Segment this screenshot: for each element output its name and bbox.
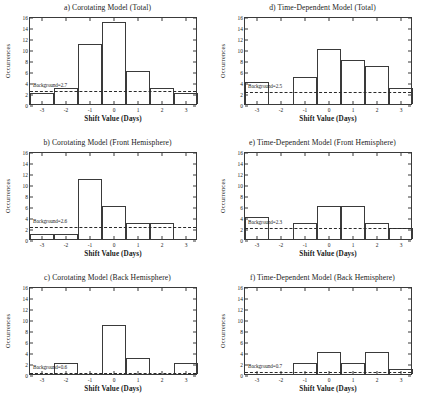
y-tick-mark (30, 40, 33, 41)
x-axis-label-e: Shift Value (Days) (244, 250, 412, 258)
y-tick-mark (30, 354, 33, 355)
histogram-bar (293, 223, 317, 240)
y-tick-mark (408, 175, 411, 176)
y-tick-label: 8 (240, 329, 243, 335)
panel-title-f: f) Time-Dependent Model (Back Hemisphere… (215, 273, 430, 282)
y-tick-label: 14 (23, 296, 28, 302)
y-tick-label: 10 (23, 318, 28, 324)
y-tick-mark (245, 62, 248, 63)
y-tick-mark (30, 299, 33, 300)
y-tick-mark (408, 321, 411, 322)
x-tick-mark (257, 153, 258, 156)
y-tick-label: 2 (240, 362, 243, 368)
y-tick-label: 6 (25, 70, 28, 76)
x-axis-label-d: Shift Value (Days) (244, 115, 412, 123)
background-level-line (245, 92, 411, 93)
x-axis-label-a: Shift Value (Days) (29, 115, 197, 123)
y-tick-mark (193, 288, 196, 289)
histogram-bar (78, 179, 102, 240)
histogram-bar (317, 352, 341, 374)
y-tick-label: 16 (23, 150, 28, 156)
x-tick-label: -1 (303, 242, 308, 248)
x-axis-label-f: Shift Value (Days) (244, 385, 412, 393)
y-tick-mark (408, 288, 411, 289)
y-tick-label: 0 (240, 373, 243, 379)
histogram-bar (365, 352, 389, 374)
y-tick-label: 12 (238, 37, 243, 43)
y-tick-mark (245, 354, 248, 355)
x-axis-label-c: Shift Value (Days) (29, 385, 197, 393)
y-tick-label: 12 (23, 172, 28, 178)
y-tick-label: 12 (23, 307, 28, 313)
plot-area-b: 0246810121416-3-2-10123Background=2.6 (29, 152, 197, 240)
background-level-label: Background=2.3 (248, 219, 282, 225)
y-tick-mark (408, 376, 411, 377)
x-tick-label: 3 (185, 107, 188, 113)
y-tick-mark (193, 84, 196, 85)
y-tick-label: 10 (23, 48, 28, 54)
y-tick-label: 12 (238, 172, 243, 178)
y-tick-label: 6 (25, 340, 28, 346)
y-tick-mark (193, 299, 196, 300)
y-tick-mark (245, 18, 248, 19)
histogram-bar (317, 49, 341, 104)
y-tick-label: 2 (25, 362, 28, 368)
x-tick-label: 0 (328, 377, 331, 383)
y-tick-mark (193, 164, 196, 165)
y-tick-label: 4 (240, 81, 243, 87)
background-level-label: Background=2.5 (248, 83, 282, 89)
y-tick-mark (408, 62, 411, 63)
y-tick-label: 6 (25, 205, 28, 211)
background-level-line (245, 372, 411, 373)
x-tick-mark (281, 153, 282, 156)
y-tick-mark (30, 208, 33, 209)
y-tick-label: 4 (25, 351, 28, 357)
y-tick-label: 16 (238, 285, 243, 291)
histogram-bar (389, 88, 413, 105)
x-tick-label: 2 (161, 242, 164, 248)
y-tick-mark (193, 332, 196, 333)
y-tick-mark (245, 376, 248, 377)
x-tick-mark (257, 288, 258, 291)
y-tick-mark (30, 288, 33, 289)
y-tick-mark (193, 321, 196, 322)
x-tick-mark (329, 18, 330, 21)
y-tick-mark (193, 376, 196, 377)
y-tick-mark (30, 175, 33, 176)
x-tick-label: 1 (352, 107, 355, 113)
y-tick-mark (245, 321, 248, 322)
x-tick-mark (114, 153, 115, 156)
y-tick-label: 14 (23, 26, 28, 32)
y-tick-mark (408, 208, 411, 209)
y-axis-label-c: Occurrences (2, 287, 12, 375)
y-tick-mark (245, 332, 248, 333)
figure-panel-grid: a) Corotating Model (Total)Occurrences02… (0, 0, 430, 407)
y-tick-label: 8 (25, 329, 28, 335)
x-tick-mark (66, 288, 67, 291)
x-tick-label: 0 (113, 377, 116, 383)
x-tick-label: -1 (303, 107, 308, 113)
histogram-bar (365, 66, 389, 105)
y-tick-label: 2 (240, 92, 243, 98)
y-tick-mark (245, 186, 248, 187)
y-tick-mark (408, 241, 411, 242)
y-tick-mark (30, 18, 33, 19)
x-axis-label-b: Shift Value (Days) (29, 250, 197, 258)
x-tick-mark (90, 288, 91, 291)
y-tick-mark (193, 62, 196, 63)
y-tick-mark (30, 186, 33, 187)
plot-area-f: 0246810121416-3-2-10123Background=0.7 (244, 287, 412, 375)
histogram-bar (30, 234, 54, 240)
x-tick-label: 1 (352, 242, 355, 248)
x-tick-mark (138, 153, 139, 156)
histogram-bar (341, 60, 365, 104)
y-tick-label: 12 (238, 307, 243, 313)
x-tick-label: -2 (279, 242, 284, 248)
y-axis-label-d: Occurrences (217, 17, 227, 105)
y-tick-mark (193, 208, 196, 209)
histogram-bar (126, 71, 150, 104)
histogram-bar (317, 206, 341, 239)
y-tick-label: 0 (240, 103, 243, 109)
y-tick-label: 6 (240, 205, 243, 211)
x-tick-mark (281, 101, 282, 104)
